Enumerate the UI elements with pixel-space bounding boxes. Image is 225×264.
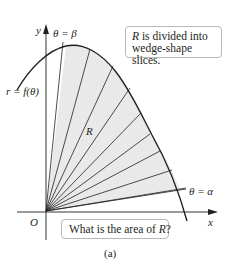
curve-label: r = f(θ) bbox=[6, 85, 39, 98]
callout-r: R bbox=[132, 30, 139, 42]
question-text: What is the area of bbox=[69, 223, 159, 235]
question-mark: ? bbox=[166, 223, 171, 235]
x-axis-label: x bbox=[207, 216, 213, 228]
callout-area-question: What is the area of R? bbox=[61, 219, 169, 239]
alpha-ray-label: θ = α bbox=[189, 185, 213, 197]
origin-label: O bbox=[30, 216, 38, 228]
y-axis-label: y bbox=[35, 24, 41, 36]
y-axis-arrow-icon bbox=[43, 24, 49, 34]
beta-ray-label: θ = β bbox=[53, 27, 77, 39]
region-label: R bbox=[85, 125, 93, 137]
callout-wedge-slices: R is divided into wedge-shape slices. bbox=[125, 26, 222, 58]
question-r: R bbox=[159, 223, 166, 235]
figure-caption: (a) bbox=[104, 247, 116, 259]
region-r-fill bbox=[46, 46, 180, 211]
callout-line1: is divided into bbox=[139, 30, 208, 42]
x-axis-arrow-icon bbox=[208, 209, 218, 215]
